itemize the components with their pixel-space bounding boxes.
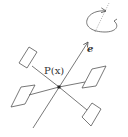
rotation-arrow-return	[114, 19, 117, 21]
rotation-axis-dashed	[95, 3, 109, 32]
arm-right	[59, 82, 85, 87]
rotation-indicator	[87, 3, 117, 32]
arm-lower-right	[59, 87, 87, 110]
rotor-left	[11, 85, 35, 107]
quadrotor-diagram: P(x) e	[0, 0, 128, 137]
rotation-arrow-icon	[87, 11, 117, 32]
point-label: P(x)	[44, 65, 64, 76]
rotor-lower-right	[82, 103, 101, 126]
center-point-p	[58, 86, 61, 89]
axis-vector-e	[33, 42, 88, 128]
rotor-upper-left	[19, 47, 37, 68]
axis-label-e: e	[87, 43, 93, 54]
rotor-right	[82, 66, 106, 88]
